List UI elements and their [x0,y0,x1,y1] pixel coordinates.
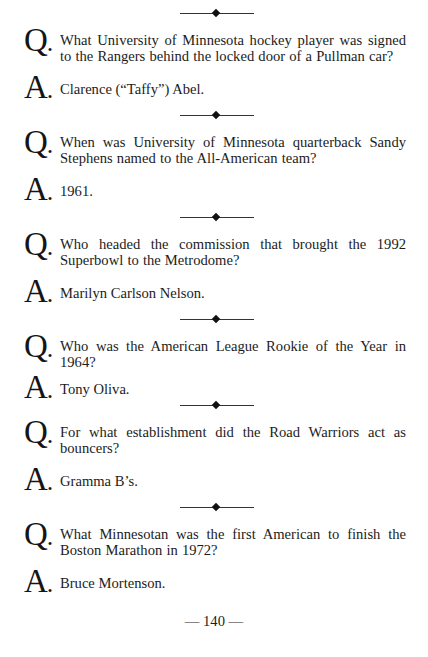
answer-text: 1961. [60,174,406,199]
question-row: Q. Who was the American League Rookie of… [24,331,406,370]
answer-text: Marilyn Carlson Nelson. [60,276,406,301]
question-text: Who headed the commission that brought t… [60,229,406,268]
answer-marker: A. [24,372,52,405]
answer-text: Tony Oliva. [60,372,406,397]
section-divider [180,9,254,19]
diamond-icon [212,9,220,17]
question-row: Q. What Minnesotan was the first America… [24,519,406,558]
question-text: What University of Minnesota hockey play… [60,25,406,64]
diamond-icon [212,315,220,323]
answer-marker: A. [24,174,52,207]
answer-text: Gramma B’s. [60,464,406,489]
question-text: For what establishment did the Road Warr… [60,417,406,456]
question-text: What Minnesotan was the first American t… [60,519,406,558]
answer-row: A. Gramma B’s. [24,464,406,494]
answer-marker: A. [24,566,52,599]
question-marker: Q. [24,331,52,364]
answer-text: Bruce Mortenson. [60,566,406,591]
question-text: Who was the American League Rookie of th… [60,331,406,370]
qa-item: Q. For what establishment did the Road W… [24,417,406,494]
section-divider [180,213,254,223]
page-number: — 140 — [0,613,428,630]
diamond-icon [212,503,220,511]
answer-row: A. Bruce Mortenson. [24,566,406,596]
question-text: When was University of Minnesota quarter… [60,127,406,166]
answer-marker: A. [24,72,52,105]
question-marker: Q. [24,229,52,262]
diamond-icon [212,111,220,119]
answer-marker: A. [24,276,52,309]
section-divider [180,503,254,513]
section-divider [180,111,254,121]
answer-marker: A. [24,464,52,497]
answer-row: A. Marilyn Carlson Nelson. [24,276,406,306]
answer-text: Clarence (“Taffy”) Abel. [60,72,406,97]
qa-item: Q. Who headed the commission that brough… [24,229,406,306]
question-marker: Q. [24,519,52,552]
question-row: Q. What University of Minnesota hockey p… [24,25,406,64]
question-row: Q. Who headed the commission that brough… [24,229,406,268]
diamond-icon [212,213,220,221]
question-marker: Q. [24,25,52,58]
qa-item: Q. When was University of Minnesota quar… [24,127,406,204]
section-divider [180,401,254,411]
question-marker: Q. [24,127,52,160]
answer-row: A. 1961. [24,174,406,204]
answer-row: A. Clarence (“Taffy”) Abel. [24,72,406,102]
question-row: Q. For what establishment did the Road W… [24,417,406,456]
answer-row: A. Tony Oliva. [24,372,406,402]
qa-item: Q. What University of Minnesota hockey p… [24,25,406,102]
section-divider [180,315,254,325]
qa-item: Q. Who was the American League Rookie of… [24,331,406,402]
question-row: Q. When was University of Minnesota quar… [24,127,406,166]
qa-item: Q. What Minnesotan was the first America… [24,519,406,596]
diamond-icon [212,401,220,409]
question-marker: Q. [24,417,52,450]
